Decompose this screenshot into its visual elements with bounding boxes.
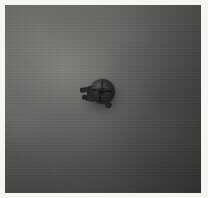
photo-border (0, 0, 208, 198)
photograph-plate (5, 5, 201, 193)
object-highlight (93, 81, 107, 92)
screenshot-viewport (0, 0, 208, 198)
dark-object (77, 74, 123, 118)
specimen-focus-layer (77, 74, 123, 118)
